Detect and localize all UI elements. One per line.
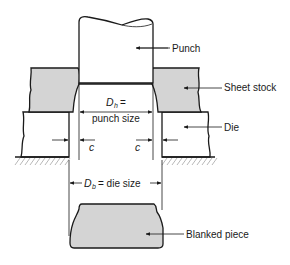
sheet-stock-right xyxy=(151,68,201,112)
hatch-line xyxy=(197,158,202,165)
hatch-line xyxy=(15,158,20,165)
hatch-line xyxy=(25,158,30,165)
punch-label: Punch xyxy=(172,43,200,54)
punch-size-equals: = xyxy=(120,97,126,108)
blanked-piece-label: Blanked piece xyxy=(186,229,249,240)
die-size-subscript: b xyxy=(92,183,96,190)
sheet-stock-left xyxy=(29,68,80,112)
hatch-line xyxy=(207,158,212,165)
die-size-label: = die size xyxy=(98,178,141,189)
ground-hatch-left xyxy=(15,158,70,165)
die-size-symbol: D xyxy=(84,177,92,189)
die-left xyxy=(21,112,69,157)
blanking-diagram: D h = punch size c c D b = die size Punc… xyxy=(0,0,290,265)
hatch-line xyxy=(30,158,35,165)
hatch-line xyxy=(167,158,172,165)
hatch-line xyxy=(20,158,25,165)
clearance-label-left: c xyxy=(89,141,95,153)
clearance-label-right: c xyxy=(135,141,141,153)
hatch-line xyxy=(202,158,207,165)
die-label: Die xyxy=(224,122,239,133)
hatch-line xyxy=(162,158,167,165)
hatch-line xyxy=(45,158,50,165)
hatch-line xyxy=(40,158,45,165)
hatch-line xyxy=(212,158,217,165)
hatch-line xyxy=(55,158,60,165)
ground-hatch-right xyxy=(162,158,217,165)
hatch-line xyxy=(50,158,55,165)
hatch-line xyxy=(35,158,40,165)
sheet-stock-label: Sheet stock xyxy=(224,82,277,93)
blanked-piece xyxy=(70,204,163,248)
hatch-line xyxy=(187,158,192,165)
hatch-line xyxy=(172,158,177,165)
punch-size-subscript: h xyxy=(114,102,118,109)
die-right xyxy=(162,112,210,157)
hatch-line xyxy=(60,158,65,165)
punch-size-symbol: D xyxy=(106,96,114,108)
hatch-line xyxy=(177,158,182,165)
hatch-line xyxy=(182,158,187,165)
hatch-line xyxy=(192,158,197,165)
punch-size-label: punch size xyxy=(92,113,140,124)
